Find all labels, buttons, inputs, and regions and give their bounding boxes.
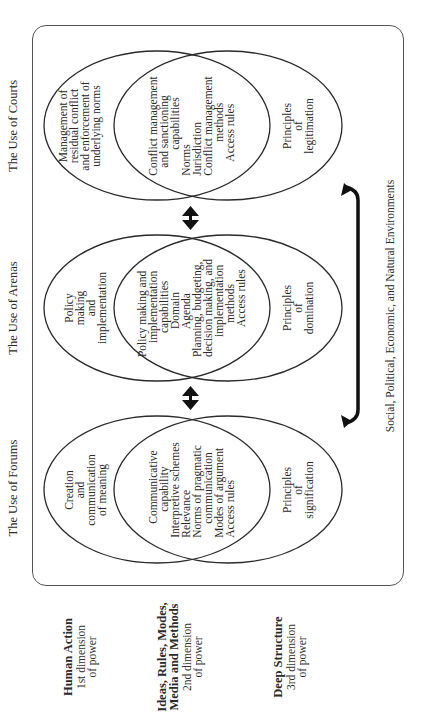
arenas-action-text: Policy making and implementation: [64, 272, 108, 344]
power-dimensions-diagram: The Use of Forums The Use of Arenas The …: [0, 0, 423, 724]
double-arrow-icon: [182, 206, 199, 230]
arenas-overlap-text: Policy making and implementation capabil…: [137, 259, 247, 357]
double-arrow-icon: [182, 386, 199, 410]
courts-overlap-text: Conflict management and sanctioning capa…: [148, 76, 236, 175]
forums-overlap-text: Communicative capability Interpretive sc…: [148, 442, 236, 537]
courts-structure-text: Principles of legitimation: [282, 98, 315, 154]
courts-action-text: Management of residual conflict and enfo…: [58, 81, 102, 170]
dimension-ideas-rules: Ideas, Rules, Modes, Media and Methods 2…: [156, 602, 204, 711]
forums-action-text: Creation and communication of meaning: [64, 454, 108, 526]
dimension-human-action: Human Action 1st dimension of power: [62, 618, 98, 696]
arenas-structure-text: Principles of domination: [282, 282, 315, 334]
forums-structure-text: Principles of signification: [282, 461, 315, 519]
curved-bracket-arrow-icon: [341, 183, 358, 428]
environment-label: Social, Political, Economic, and Natural…: [384, 180, 396, 432]
dimension-deep-structure: Deep Structure 3rd dimension of power: [272, 616, 308, 697]
